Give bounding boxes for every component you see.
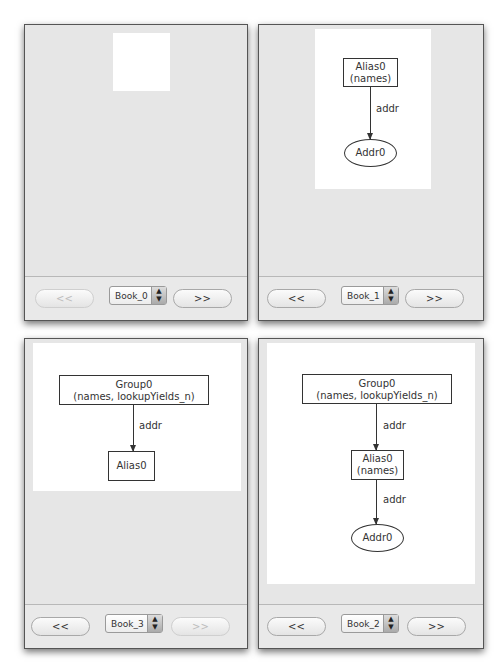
node-label: Alias0 xyxy=(116,460,146,471)
instance-select[interactable]: Book_2 ▲▼ xyxy=(341,614,399,633)
edge-label: addr xyxy=(139,420,162,431)
stepper-arrows-icon[interactable]: ▲▼ xyxy=(383,615,398,632)
graph-canvas: Group0 (names, lookupYields_n) addr Alia… xyxy=(267,343,475,584)
window-book-2: Group0 (names, lookupYields_n) addr Alia… xyxy=(258,338,484,649)
node-label: Addr0 xyxy=(356,147,386,158)
graph-canvas: Alias0 (names) addr Addr0 xyxy=(315,29,431,189)
prev-button[interactable]: << xyxy=(31,617,90,636)
next-button[interactable]: >> xyxy=(173,289,232,308)
graph-node-group0[interactable]: Group0 (names, lookupYields_n) xyxy=(302,374,452,404)
graph-node-alias0[interactable]: Alias0 (names) xyxy=(343,58,398,87)
graph-canvas xyxy=(113,33,170,91)
prev-button[interactable]: << xyxy=(267,289,326,308)
instance-select[interactable]: Book_3 ▲▼ xyxy=(105,614,163,633)
node-sublabel: (names, lookupYields_n) xyxy=(60,391,208,403)
stepper-arrows-icon[interactable]: ▲▼ xyxy=(383,287,398,304)
instance-select[interactable]: Book_0 ▲▼ xyxy=(109,286,167,305)
node-sublabel: (names) xyxy=(352,465,403,477)
stepper-arrows-icon[interactable]: ▲▼ xyxy=(151,287,166,304)
prev-button[interactable]: << xyxy=(267,617,326,636)
graph-edge-arrow xyxy=(376,480,377,524)
node-label: Alias0 xyxy=(352,453,403,465)
next-button[interactable]: >> xyxy=(171,617,230,636)
graph-node-alias0[interactable]: Alias0 xyxy=(108,451,155,481)
graph-node-alias0[interactable]: Alias0 (names) xyxy=(351,450,404,480)
graph-edge-arrow xyxy=(376,404,377,450)
instance-select-value: Book_3 xyxy=(111,615,144,634)
window-book-0: << Book_0 ▲▼ >> xyxy=(24,24,248,321)
edge-label: addr xyxy=(376,103,399,114)
edge-label: addr xyxy=(383,494,406,505)
navigation-bar: << Book_3 ▲▼ >> xyxy=(25,604,247,648)
stepper-arrows-icon[interactable]: ▲▼ xyxy=(147,615,162,632)
graph-node-group0[interactable]: Group0 (names, lookupYields_n) xyxy=(59,375,209,405)
navigation-bar: << Book_0 ▲▼ >> xyxy=(25,276,247,320)
node-label: Addr0 xyxy=(363,532,393,543)
node-sublabel: (names, lookupYields_n) xyxy=(303,390,451,402)
next-button[interactable]: >> xyxy=(407,617,466,636)
window-book-1: Alias0 (names) addr Addr0 << Book_1 ▲▼ >… xyxy=(258,24,484,321)
graph-node-addr0[interactable]: Addr0 xyxy=(344,139,397,167)
prev-button[interactable]: << xyxy=(35,289,94,308)
instance-select-value: Book_2 xyxy=(347,615,380,634)
navigation-bar: << Book_1 ▲▼ >> xyxy=(259,276,483,320)
graph-edge-arrow xyxy=(133,405,134,451)
graph-edge-arrow xyxy=(370,87,371,139)
window-book-3: Group0 (names, lookupYields_n) addr Alia… xyxy=(24,338,248,649)
node-sublabel: (names) xyxy=(344,73,397,85)
edge-label: addr xyxy=(383,420,406,431)
instance-select[interactable]: Book_1 ▲▼ xyxy=(341,286,399,305)
next-button[interactable]: >> xyxy=(405,289,464,308)
graph-node-addr0[interactable]: Addr0 xyxy=(351,524,404,552)
node-label: Group0 xyxy=(303,378,451,390)
instance-select-value: Book_1 xyxy=(347,287,380,306)
node-label: Alias0 xyxy=(344,61,397,73)
graph-canvas: Group0 (names, lookupYields_n) addr Alia… xyxy=(33,343,241,491)
node-label: Group0 xyxy=(60,379,208,391)
instance-select-value: Book_0 xyxy=(115,287,148,306)
navigation-bar: << Book_2 ▲▼ >> xyxy=(259,604,483,648)
